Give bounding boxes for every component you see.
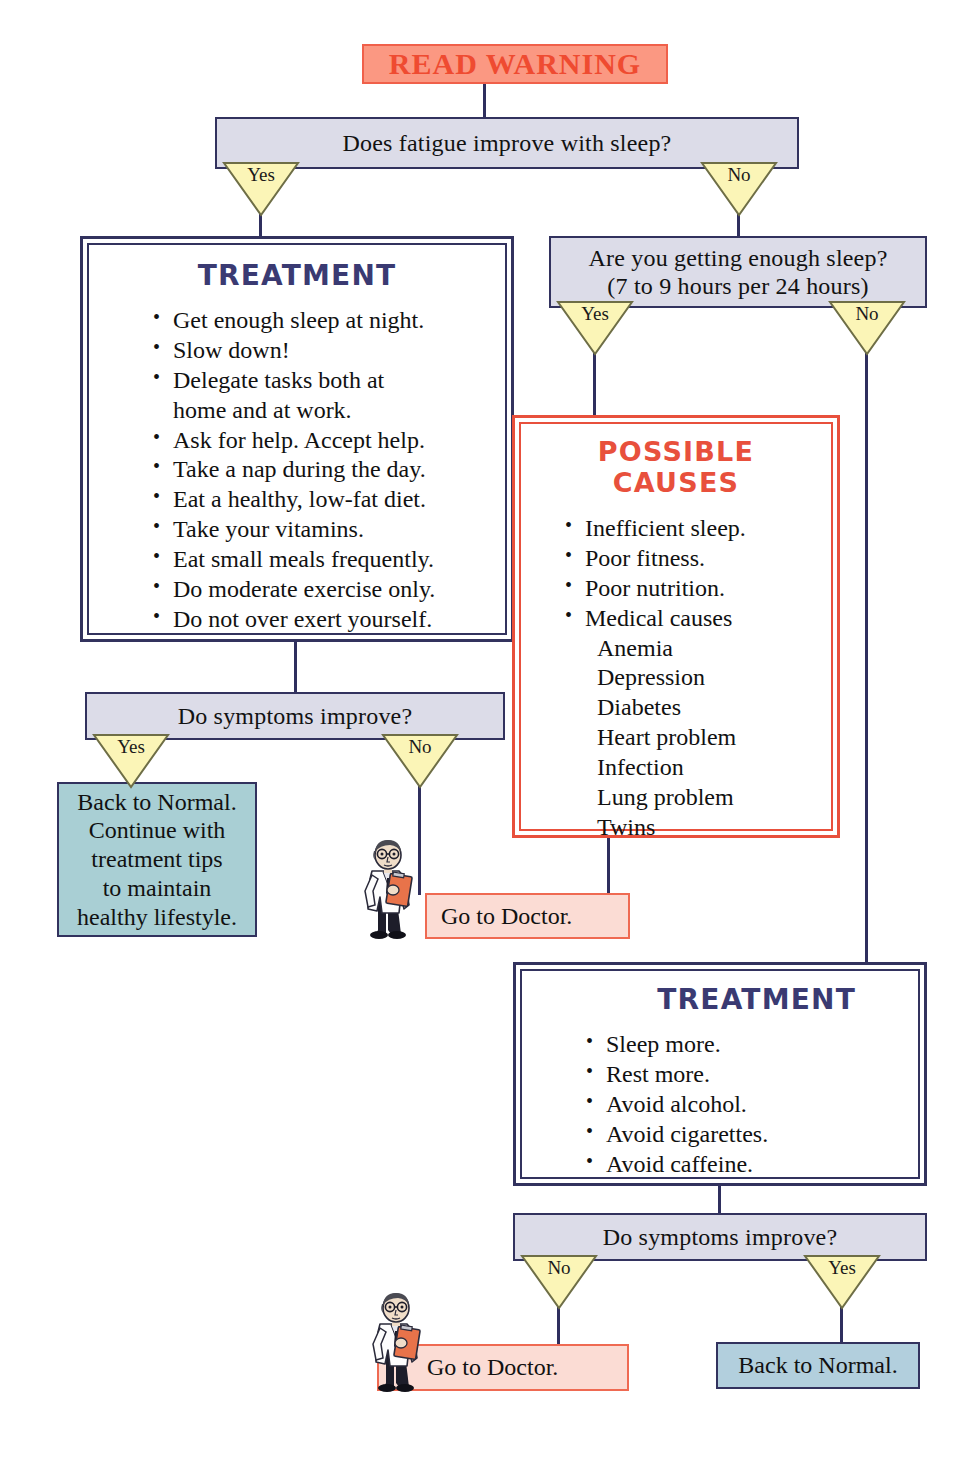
list-item: Avoid cigarettes.	[582, 1120, 900, 1150]
branch-no-q4: No	[520, 1254, 598, 1310]
decision-question-text: Does fatigue improve with sleep?	[343, 129, 672, 157]
list-item: Twins	[597, 813, 817, 843]
terminal-label: Go to Doctor.	[441, 902, 628, 931]
treatment-panel-right: TREATMENT Sleep more. Rest more. Avoid a…	[513, 962, 927, 1186]
list-item: Inefficient sleep.	[561, 514, 817, 544]
branch-no-q2: No	[828, 300, 906, 356]
terminal-back-to-normal-full: Back to Normal. Continue with treatment …	[57, 782, 257, 937]
list-item: Depression	[597, 663, 817, 693]
terminal-label: Go to Doctor.	[427, 1353, 627, 1382]
list-item: Infection	[597, 753, 817, 783]
branch-no-q3: No	[381, 733, 459, 789]
read-warning-banner: READ WARNING	[362, 44, 668, 84]
treatment-right-title: TREATMENT	[540, 983, 900, 1016]
list-item: Do moderate exercise only.	[149, 575, 487, 605]
list-item: Diabetes	[597, 693, 817, 723]
list-item: Rest more.	[582, 1060, 900, 1090]
list-item: Slow down!	[149, 336, 487, 366]
medical-causes-sublist: Anemia Depression Diabetes Heart problem…	[535, 634, 817, 843]
list-item: Do not over exert yourself.	[149, 605, 487, 635]
list-item: Take a nap during the day.	[149, 455, 487, 485]
list-item: Poor fitness.	[561, 544, 817, 574]
read-warning-label: READ WARNING	[389, 47, 641, 81]
treatment-right-list: Sleep more. Rest more. Avoid alcohol. Av…	[540, 1030, 900, 1179]
connector-q2-yes	[593, 352, 596, 415]
branch-yes-q4: Yes	[803, 1254, 881, 1310]
list-item: Lung problem	[597, 783, 817, 813]
treatment-panel-left: TREATMENT Get enough sleep at night. Slo…	[80, 236, 514, 642]
list-item: Sleep more.	[582, 1030, 900, 1060]
list-item: Get enough sleep at night.	[149, 306, 487, 336]
flowchart-canvas: READ WARNING Does fatigue improve with s…	[0, 0, 969, 1472]
possible-causes-title: POSSIBLE CAUSES	[535, 436, 817, 498]
terminal-go-to-doctor-mid: Go to Doctor.	[425, 893, 630, 939]
list-item: Medical causes	[561, 604, 817, 634]
terminal-label: Back to Normal.	[718, 1351, 918, 1380]
terminal-back-to-normal-short: Back to Normal.	[716, 1342, 920, 1389]
terminal-label: Back to Normal. Continue with treatment …	[65, 788, 249, 932]
treatment-left-list: Get enough sleep at night. Slow down! De…	[107, 306, 487, 635]
list-item: Heart problem	[597, 723, 817, 753]
connector-treatment-left-to-q3	[294, 642, 297, 692]
treatment-left-title: TREATMENT	[107, 259, 487, 292]
branch-yes-q3: Yes	[92, 733, 170, 789]
list-item: Ask for help. Accept help.	[149, 426, 487, 456]
list-item: Anemia	[597, 634, 817, 664]
list-item: Eat a healthy, low-fat diet.	[149, 485, 487, 515]
possible-causes-list: Inefficient sleep. Poor fitness. Poor nu…	[535, 514, 817, 634]
branch-yes-q2: Yes	[556, 300, 634, 356]
possible-causes-panel: POSSIBLE CAUSES Inefficient sleep. Poor …	[512, 415, 840, 838]
list-item: Avoid caffeine.	[582, 1150, 900, 1180]
list-item: Avoid alcohol.	[582, 1090, 900, 1120]
branch-no-q1: No	[700, 161, 778, 217]
branch-yes-q1: Yes	[222, 161, 300, 217]
connector-causes-to-doctor	[607, 838, 610, 894]
connector-banner-to-q1	[483, 84, 486, 117]
list-item: Delegate tasks both at home and at work.	[149, 366, 487, 426]
list-item: Poor nutrition.	[561, 574, 817, 604]
connector-q4-no	[557, 1306, 560, 1346]
decision-question-text: Do symptoms improve?	[603, 1223, 838, 1251]
decision-question-text: Do symptoms improve?	[178, 702, 413, 730]
doctor-icon	[360, 1288, 432, 1393]
list-item: Eat small meals frequently.	[149, 545, 487, 575]
connector-treatment-right-to-q4	[718, 1186, 721, 1213]
decision-enough-sleep: Are you getting enough sleep? (7 to 9 ho…	[549, 236, 927, 308]
list-item: Take your vitamins.	[149, 515, 487, 545]
decision-question-text: Are you getting enough sleep? (7 to 9 ho…	[588, 244, 887, 301]
connector-q4-yes	[840, 1306, 843, 1342]
doctor-icon	[352, 835, 424, 940]
connector-q2-no	[865, 352, 868, 962]
